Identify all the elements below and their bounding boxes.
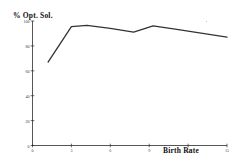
data-line: [48, 25, 227, 62]
x-axis-tick-label: 3: [66, 148, 76, 153]
y-axis-tick-label: 40: [18, 93, 30, 98]
x-axis-tick-label: 15: [222, 148, 232, 153]
chart-container: % Opt. Sol. Birth Rate 020406080100 0369…: [0, 0, 233, 161]
axis-lines: [33, 21, 228, 146]
y-axis-tick-label: 100: [18, 19, 30, 24]
data-series-group: [48, 25, 227, 62]
y-axis-tick-label: 20: [18, 118, 30, 123]
x-axis-tick-label: 6: [105, 148, 115, 153]
y-axis-tick-label: 80: [18, 43, 30, 48]
x-axis-tick-label: 0: [28, 148, 38, 153]
plot-area: [0, 0, 233, 161]
x-axis-tick-label: 12: [183, 148, 193, 153]
y-axis-tick-label: 60: [18, 68, 30, 73]
x-axis-tick-label: 9: [144, 148, 154, 153]
page-speck-artifact: [206, 21, 207, 22]
